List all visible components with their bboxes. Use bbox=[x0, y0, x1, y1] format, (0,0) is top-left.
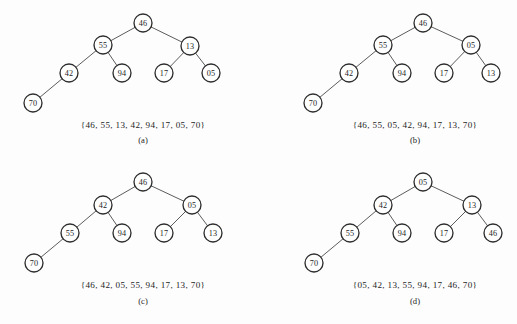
d-node-13-label: 13 bbox=[468, 201, 476, 210]
c-node-42[interactable]: 42 bbox=[94, 196, 112, 214]
b-node-42-label: 42 bbox=[345, 69, 353, 78]
caption-letter-a: (a) bbox=[138, 135, 148, 145]
d-node-17-label: 17 bbox=[440, 229, 448, 238]
a-node-05-label: 05 bbox=[207, 69, 215, 78]
a-node-94[interactable]: 94 bbox=[113, 64, 131, 82]
edge-group-d bbox=[321, 186, 488, 257]
a-node-94-label: 94 bbox=[118, 69, 126, 78]
c-node-46[interactable]: 46 bbox=[134, 173, 152, 191]
caption-letter-d: (d) bbox=[410, 296, 420, 306]
c-edge-46-05 bbox=[151, 186, 184, 201]
b-node-70[interactable]: 70 bbox=[304, 94, 322, 112]
c-node-46-label: 46 bbox=[139, 178, 147, 187]
d-edge-13-17 bbox=[450, 211, 465, 226]
c-node-70[interactable]: 70 bbox=[25, 254, 43, 272]
a-edge-55-42 bbox=[76, 51, 96, 68]
c-node-55[interactable]: 55 bbox=[61, 224, 79, 242]
a-node-42[interactable]: 42 bbox=[60, 64, 78, 82]
c-node-05[interactable]: 05 bbox=[183, 196, 201, 214]
a-node-17-label: 17 bbox=[160, 69, 168, 78]
c-edge-55-70 bbox=[41, 239, 63, 257]
d-node-94[interactable]: 94 bbox=[393, 224, 411, 242]
a-edge-13-05 bbox=[196, 53, 206, 66]
b-edge-42-70 bbox=[320, 79, 342, 97]
d-node-42-label: 42 bbox=[379, 201, 387, 210]
b-node-55[interactable]: 55 bbox=[374, 36, 392, 54]
tree-panel-a: 4655134294170570{46, 55, 13, 42, 94, 17,… bbox=[24, 14, 220, 145]
b-node-17-label: 17 bbox=[440, 69, 448, 78]
c-node-05-label: 05 bbox=[188, 201, 196, 210]
a-node-46-label: 46 bbox=[139, 19, 147, 28]
binary-tree-figure: 4655134294170570{46, 55, 13, 42, 94, 17,… bbox=[0, 0, 517, 324]
b-edge-55-42 bbox=[356, 51, 376, 68]
caption-set-a: {46, 55, 13, 42, 94, 17, 05, 70} bbox=[81, 120, 206, 130]
a-node-17[interactable]: 17 bbox=[155, 64, 173, 82]
c-node-13-label: 13 bbox=[209, 229, 217, 238]
b-node-42[interactable]: 42 bbox=[340, 64, 358, 82]
caption-letter-c: (c) bbox=[138, 296, 148, 306]
a-node-55-label: 55 bbox=[99, 41, 107, 50]
a-node-13[interactable]: 13 bbox=[181, 37, 199, 55]
d-node-70[interactable]: 70 bbox=[305, 254, 323, 272]
b-edge-46-05 bbox=[431, 27, 463, 42]
b-edge-05-17 bbox=[450, 51, 465, 66]
d-edge-13-46 bbox=[477, 212, 487, 226]
c-node-13[interactable]: 13 bbox=[204, 224, 222, 242]
b-node-94[interactable]: 94 bbox=[393, 64, 411, 82]
d-node-05[interactable]: 05 bbox=[414, 173, 432, 191]
a-edge-46-55 bbox=[111, 27, 135, 40]
a-edge-46-13 bbox=[151, 27, 182, 42]
d-edge-05-42 bbox=[391, 186, 415, 200]
d-node-42[interactable]: 42 bbox=[374, 196, 392, 214]
b-node-70-label: 70 bbox=[309, 99, 317, 108]
d-node-17[interactable]: 17 bbox=[435, 224, 453, 242]
c-node-70-label: 70 bbox=[30, 259, 38, 268]
caption-set-c: {46, 42, 05, 55, 94, 17, 13, 70} bbox=[81, 280, 206, 290]
caption-letter-b: (b) bbox=[410, 135, 420, 145]
d-node-55-label: 55 bbox=[346, 229, 354, 238]
d-node-55[interactable]: 55 bbox=[341, 224, 359, 242]
tree-panel-b: 4655054294171370{46, 55, 05, 42, 94, 17,… bbox=[304, 14, 500, 145]
a-node-55[interactable]: 55 bbox=[94, 36, 112, 54]
tree-diagram-canvas: 4655134294170570{46, 55, 13, 42, 94, 17,… bbox=[0, 0, 517, 324]
b-node-55-label: 55 bbox=[379, 41, 387, 50]
c-edge-42-94 bbox=[108, 212, 117, 225]
c-edge-42-55 bbox=[77, 211, 96, 227]
tree-panel-d: 0542135594174670{05, 42, 13, 55, 94, 17,… bbox=[305, 173, 502, 306]
b-node-94-label: 94 bbox=[398, 69, 406, 78]
a-node-05[interactable]: 05 bbox=[202, 64, 220, 82]
d-node-05-label: 05 bbox=[419, 178, 427, 187]
b-node-13[interactable]: 13 bbox=[482, 64, 500, 82]
b-node-46-label: 46 bbox=[419, 19, 427, 28]
c-edge-05-13 bbox=[197, 212, 207, 226]
c-node-17[interactable]: 17 bbox=[155, 224, 173, 242]
b-edge-05-13 bbox=[476, 52, 486, 65]
d-node-13[interactable]: 13 bbox=[463, 196, 481, 214]
d-node-70-label: 70 bbox=[310, 259, 318, 268]
a-node-46[interactable]: 46 bbox=[134, 14, 152, 32]
b-node-46[interactable]: 46 bbox=[414, 14, 432, 32]
b-node-13-label: 13 bbox=[487, 69, 495, 78]
a-node-70-label: 70 bbox=[29, 99, 37, 108]
d-edge-42-94 bbox=[388, 212, 397, 225]
b-node-17[interactable]: 17 bbox=[435, 64, 453, 82]
a-node-13-label: 13 bbox=[186, 42, 194, 51]
b-node-05[interactable]: 05 bbox=[462, 36, 480, 54]
c-node-94[interactable]: 94 bbox=[113, 224, 131, 242]
d-edge-42-55 bbox=[357, 211, 376, 227]
c-edge-46-42 bbox=[111, 186, 135, 200]
b-edge-55-94 bbox=[388, 52, 397, 65]
d-edge-05-13 bbox=[431, 186, 464, 201]
d-node-46[interactable]: 46 bbox=[484, 224, 502, 242]
a-node-70[interactable]: 70 bbox=[24, 94, 42, 112]
a-node-42-label: 42 bbox=[65, 69, 73, 78]
c-node-94-label: 94 bbox=[118, 229, 126, 238]
d-node-94-label: 94 bbox=[398, 229, 406, 238]
a-edge-55-94 bbox=[108, 52, 117, 65]
c-node-42-label: 42 bbox=[99, 201, 107, 210]
edge-group-b bbox=[320, 27, 486, 97]
c-node-55-label: 55 bbox=[66, 229, 74, 238]
caption-set-b: {46, 55, 05, 42, 94, 17, 13, 70} bbox=[353, 120, 478, 130]
edge-group-c bbox=[41, 186, 208, 257]
c-node-17-label: 17 bbox=[160, 229, 168, 238]
